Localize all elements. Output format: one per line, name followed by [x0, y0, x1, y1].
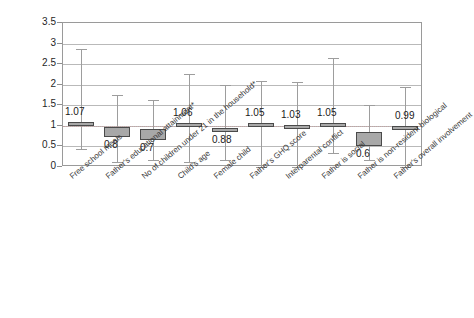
- y-tick-label: 2: [50, 79, 56, 89]
- y-tick-mark: [57, 145, 62, 146]
- y-tick-label: 1: [50, 120, 56, 130]
- y-tick-mark: [57, 125, 62, 126]
- y-tick-label: 1.5: [42, 99, 56, 109]
- whisker-cap-lower: [328, 153, 339, 154]
- whisker-line: [225, 85, 226, 160]
- whisker-cap-upper: [148, 100, 159, 101]
- whisker-line: [189, 74, 190, 161]
- whisker-cap-upper: [112, 95, 123, 96]
- y-tick-mark: [57, 43, 62, 44]
- box-marker: [248, 123, 274, 127]
- series-group: 1.07: [63, 23, 99, 165]
- data-value-label: 1.05: [245, 107, 264, 118]
- y-tick-mark: [57, 63, 62, 64]
- y-tick-mark: [57, 22, 62, 23]
- whisker-cap-upper: [76, 49, 87, 50]
- x-axis-category-labels: Free school mealsFather's educational at…: [0, 166, 444, 318]
- whisker-cap-upper: [256, 81, 267, 82]
- y-tick-mark: [57, 166, 62, 167]
- y-tick-label: 2.5: [42, 58, 56, 68]
- y-tick-label: 0.5: [42, 140, 56, 150]
- whisker-cap-upper: [364, 105, 375, 106]
- box-marker: [68, 122, 94, 126]
- whisker-line: [81, 49, 82, 150]
- y-tick-mark: [57, 104, 62, 105]
- whisker-cap-upper: [292, 82, 303, 83]
- whisker-cap-upper: [328, 58, 339, 59]
- y-axis: 00.511.522.533.5: [0, 22, 56, 166]
- whisker-cap-upper: [184, 74, 195, 75]
- y-tick-label: 3: [50, 38, 56, 48]
- whisker-cap-upper: [220, 85, 231, 86]
- whisker-cap-upper: [400, 87, 411, 88]
- y-tick-label: 3.5: [42, 17, 56, 27]
- whisker-cap-lower: [76, 149, 87, 150]
- box-marker: [212, 128, 238, 133]
- data-value-label: 1.07: [65, 106, 84, 117]
- box-marker: [320, 123, 346, 127]
- data-value-label: 0.88: [212, 134, 231, 145]
- data-value-label: 1.03: [281, 109, 300, 120]
- box-marker: [284, 125, 310, 129]
- data-value-label: 1.05: [317, 107, 336, 118]
- data-value-label: 0.99: [395, 110, 414, 121]
- y-tick-mark: [57, 84, 62, 85]
